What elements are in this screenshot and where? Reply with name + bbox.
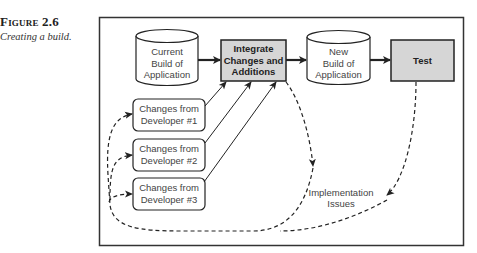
new-build-line3: Application <box>315 69 361 80</box>
dev1-line1: Changes from <box>139 103 199 114</box>
dev3-line2: Developer #3 <box>141 194 198 205</box>
dashed-to-dev1 <box>108 114 132 175</box>
dev2-line2: Developer #2 <box>141 155 198 166</box>
arrow-dev1-to-integrate <box>205 82 226 106</box>
dev2-box: Changes from Developer #2 <box>133 139 205 171</box>
dashed-to-dev2 <box>110 155 132 200</box>
test-box: Test <box>391 40 454 81</box>
current-build-line3: Application <box>144 69 190 80</box>
arrow-dev2-to-integrate <box>205 82 251 143</box>
dashed-integrate-to-issues <box>286 82 313 166</box>
current-build-cylinder: Current Build of Application <box>136 30 198 86</box>
dev3-line1: Changes from <box>139 182 199 193</box>
dev2-line1: Changes from <box>139 143 199 154</box>
issues-line1: Implementation <box>309 187 374 198</box>
new-build-cylinder: New Build of Application <box>307 31 370 85</box>
integrate-line1: Integrate <box>233 43 273 54</box>
integrate-line2: Changes and <box>224 55 284 66</box>
dev3-box: Changes from Developer #3 <box>133 178 205 210</box>
integrate-line3: Additions <box>232 66 276 77</box>
new-build-line1: New <box>329 46 348 57</box>
dev1-line2: Developer #1 <box>141 115 198 126</box>
current-build-line2: Build of <box>151 58 183 69</box>
dashed-test-to-issues <box>387 82 416 195</box>
dashed-to-dev3 <box>109 194 132 202</box>
new-build-line2: Build of <box>323 58 355 69</box>
test-label: Test <box>413 55 433 66</box>
current-build-line1: Current <box>151 46 183 57</box>
dev1-box: Changes from Developer #1 <box>133 99 205 131</box>
build-process-diagram: Current Build of Application Integrate C… <box>0 0 477 253</box>
issues-line2: Issues <box>327 198 355 209</box>
integrate-box: Integrate Changes and Additions <box>221 40 286 81</box>
